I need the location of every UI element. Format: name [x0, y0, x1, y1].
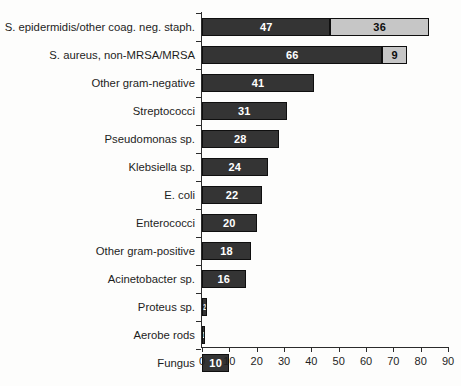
y-axis-tick [196, 237, 201, 238]
plot-area: S. epidermidis/other coag. neg. staph.S.… [0, 0, 461, 386]
bar-row: 41 [202, 74, 314, 92]
bar-row: 22 [202, 186, 262, 204]
bar-row: 16 [202, 270, 246, 288]
x-axis-tick [448, 347, 449, 352]
bar-segment-primary: 24 [202, 158, 268, 176]
bar-row: 31 [202, 102, 287, 120]
bar-segment-primary: 1 [202, 326, 205, 344]
x-axis-tick [393, 347, 394, 352]
bar-chart: S. epidermidis/other coag. neg. staph.S.… [0, 0, 461, 386]
category-label: Aerobe rods [133, 329, 195, 342]
x-axis-tick-label: 10 [214, 355, 244, 367]
bar-row: 28 [202, 130, 279, 148]
x-axis-tick-label: 50 [324, 355, 354, 367]
x-axis-tick [339, 347, 340, 352]
x-axis-line [201, 347, 449, 348]
y-axis-tick [196, 97, 201, 98]
x-axis-tick [311, 347, 312, 352]
x-axis-tick-label: 40 [296, 355, 326, 367]
bar-row: 4736 [202, 18, 429, 36]
y-axis-tick [196, 181, 201, 182]
bar-segment-primary: 31 [202, 102, 287, 120]
category-label: Other gram-positive [96, 245, 195, 258]
x-axis-tick-label: 0 [187, 355, 217, 367]
bar-row: 669 [202, 46, 407, 64]
y-axis-tick [196, 153, 201, 154]
y-axis-tick [196, 349, 201, 350]
bar-segment-primary: 2 [202, 298, 207, 316]
category-label: Acinetobacter sp. [108, 273, 195, 286]
y-axis-tick [196, 13, 201, 14]
y-axis-tick [196, 69, 201, 70]
bar-value-label: 31 [238, 106, 251, 117]
bar-segment-primary: 66 [202, 46, 382, 64]
category-label: S. aureus, non-MRSA/MRSA [49, 49, 195, 62]
x-axis-tick-label: 80 [406, 355, 436, 367]
bar-segment-primary: 22 [202, 186, 262, 204]
bar-value-label: 16 [218, 274, 231, 285]
bar-value-label: 47 [260, 22, 273, 33]
bar-value-label: 1 [202, 330, 205, 341]
y-axis-tick [196, 41, 201, 42]
bar-value-label: 22 [226, 190, 239, 201]
bar-value-label: 36 [373, 22, 386, 33]
bar-row: 18 [202, 242, 251, 260]
bar-segment-secondary: 36 [330, 18, 428, 36]
x-axis-tick [229, 347, 230, 352]
category-label: S. epidermidis/other coag. neg. staph. [5, 21, 195, 34]
bar-segment-primary: 41 [202, 74, 314, 92]
bar-segment-primary: 16 [202, 270, 246, 288]
bar-value-label: 2 [203, 302, 206, 313]
y-axis-tick [196, 293, 201, 294]
bar-row: 2 [202, 298, 207, 316]
x-axis-tick [257, 347, 258, 352]
bar-value-label: 41 [252, 78, 265, 89]
category-label: Other gram-negative [91, 77, 195, 90]
bar-segment-primary: 18 [202, 242, 251, 260]
x-axis-tick [284, 347, 285, 352]
category-label: Enterococci [136, 217, 195, 230]
x-axis-tick-label: 20 [242, 355, 272, 367]
bar-row: 1 [202, 326, 205, 344]
bar-value-label: 20 [223, 218, 236, 229]
x-axis-tick-label: 90 [433, 355, 461, 367]
y-axis-tick [196, 321, 201, 322]
bar-row: 24 [202, 158, 268, 176]
y-axis-tick [196, 125, 201, 126]
bar-value-label: 9 [392, 50, 398, 61]
bar-value-label: 28 [234, 134, 247, 145]
x-axis-tick [366, 347, 367, 352]
category-label: Klebsiella sp. [128, 161, 195, 174]
x-axis-tick [421, 347, 422, 352]
x-axis-tick-label: 30 [269, 355, 299, 367]
category-label: Proteus sp. [138, 301, 195, 314]
bar-value-label: 66 [286, 50, 299, 61]
bar-segment-secondary: 9 [382, 46, 407, 64]
category-label: E. coli [164, 189, 195, 202]
bar-segment-primary: 28 [202, 130, 279, 148]
x-axis-tick-label: 60 [351, 355, 381, 367]
x-axis-tick-label: 70 [378, 355, 408, 367]
x-axis-tick [202, 347, 203, 352]
bar-row: 20 [202, 214, 257, 232]
bar-segment-primary: 47 [202, 18, 330, 36]
bar-segment-primary: 20 [202, 214, 257, 232]
bar-value-label: 18 [220, 246, 233, 257]
bar-value-label: 24 [228, 162, 241, 173]
y-axis-tick [196, 265, 201, 266]
category-label: Pseudomonas sp. [105, 133, 195, 146]
category-label: Streptococci [133, 105, 195, 118]
y-axis-tick [196, 209, 201, 210]
